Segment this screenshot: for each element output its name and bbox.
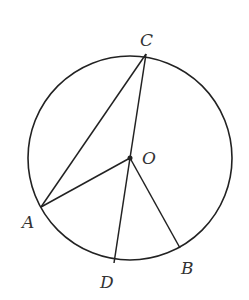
- label-b: B: [180, 258, 194, 278]
- segment-od: [114, 158, 130, 263]
- label-c: C: [140, 30, 153, 50]
- label-d: D: [99, 272, 114, 292]
- center-point-o: [128, 156, 133, 161]
- label-a: A: [20, 212, 34, 232]
- segment-ob: [130, 158, 180, 248]
- segment-oa: [41, 158, 130, 207]
- segment-ca: [41, 54, 146, 207]
- geometry-diagram: C O A D B: [0, 0, 249, 300]
- segment-co: [130, 54, 146, 158]
- label-o: O: [142, 148, 156, 168]
